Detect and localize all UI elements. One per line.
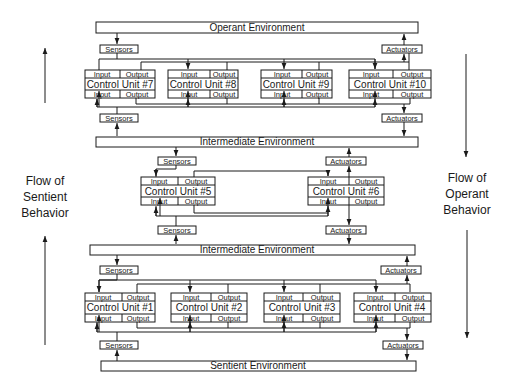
output-port-label: Output — [401, 90, 424, 99]
actuators-label: Actuators — [330, 226, 362, 235]
output-port-label: Output — [355, 177, 378, 186]
actuators-label: Actuators — [330, 157, 362, 166]
output-port-label: Output — [126, 90, 149, 99]
input-port-label: Input — [95, 293, 113, 302]
sensors-label: Sensors — [105, 114, 133, 123]
output-port-label: Output — [402, 314, 425, 323]
output-port-label: Output — [401, 70, 424, 79]
output-port-label: Output — [213, 70, 236, 79]
output-port-label: Output — [213, 90, 236, 99]
output-port-label: Output — [311, 293, 334, 302]
intermediate-environment-bottom-label: Intermediate Environment — [200, 244, 315, 255]
actuators-label: Actuators — [386, 45, 418, 54]
svg-text:Flow of: Flow of — [448, 171, 487, 185]
svg-text:Flow of: Flow of — [26, 174, 65, 188]
input-port-label: Input — [151, 197, 169, 206]
control-unit-4-label: Control Unit #4 — [359, 302, 426, 313]
output-port-label: Output — [126, 70, 149, 79]
control-unit-3-label: Control Unit #3 — [269, 302, 336, 313]
actuators-label: Actuators — [386, 114, 418, 123]
control-unit-8-label: Control Unit #8 — [170, 79, 237, 90]
input-port-label: Input — [367, 293, 385, 302]
input-port-label: Input — [183, 293, 201, 302]
control-unit-9-label: Control Unit #9 — [263, 79, 330, 90]
input-port-label: Input — [181, 90, 199, 99]
sentient-environment-label: Sentient Environment — [210, 360, 306, 371]
intermediate-environment-top-label: Intermediate Environment — [200, 136, 315, 147]
sensors-label: Sensors — [163, 157, 191, 166]
control-unit-6-label: Control Unit #6 — [313, 186, 380, 197]
output-port-label: Output — [185, 197, 208, 206]
input-port-label: Input — [274, 90, 292, 99]
input-port-label: Input — [320, 197, 338, 206]
input-port-label: Input — [276, 314, 294, 323]
output-port-label: Output — [127, 314, 150, 323]
input-port-label: Input — [183, 314, 201, 323]
input-port-label: Input — [274, 70, 292, 79]
operant-flow-label: Flow of Operant Behavior — [443, 171, 490, 217]
sensors-label: Sensors — [105, 266, 133, 275]
sentient-flow-label: Flow of Sentient Behavior — [21, 174, 68, 220]
input-port-label: Input — [94, 90, 112, 99]
svg-text:Behavior: Behavior — [21, 206, 68, 220]
output-port-label: Output — [402, 293, 425, 302]
output-port-label: Output — [127, 293, 150, 302]
input-port-label: Input — [367, 314, 385, 323]
output-port-label: Output — [311, 314, 334, 323]
input-port-label: Input — [363, 90, 381, 99]
control-unit-2-label: Control Unit #2 — [176, 302, 243, 313]
input-port-label: Input — [94, 70, 112, 79]
operant-environment-label: Operant Environment — [209, 22, 304, 33]
sensors-label: Sensors — [105, 341, 133, 350]
output-port-label: Output — [306, 90, 329, 99]
svg-text:Operant: Operant — [445, 187, 489, 201]
control-unit-10-label: Control Unit #10 — [354, 79, 427, 90]
actuators-label: Actuators — [385, 266, 417, 275]
input-port-label: Input — [363, 70, 381, 79]
input-port-label: Input — [151, 177, 169, 186]
svg-text:Sentient: Sentient — [23, 190, 68, 204]
svg-text:Behavior: Behavior — [443, 203, 490, 217]
output-port-label: Output — [306, 70, 329, 79]
input-port-label: Input — [276, 293, 294, 302]
output-port-label: Output — [185, 177, 208, 186]
input-port-label: Input — [181, 70, 199, 79]
control-unit-5-label: Control Unit #5 — [145, 186, 212, 197]
output-port-label: Output — [355, 197, 378, 206]
actuators-label: Actuators — [387, 341, 419, 350]
input-port-label: Input — [95, 314, 113, 323]
control-unit-7-label: Control Unit #7 — [87, 79, 154, 90]
output-port-label: Output — [218, 293, 241, 302]
input-port-label: Input — [320, 177, 338, 186]
control-hierarchy-diagram: Operant Environment Intermediate Environ… — [0, 0, 516, 392]
control-unit-1-label: Control Unit #1 — [87, 302, 154, 313]
sensors-label: Sensors — [105, 45, 133, 54]
output-port-label: Output — [218, 314, 241, 323]
sensors-label: Sensors — [163, 226, 191, 235]
